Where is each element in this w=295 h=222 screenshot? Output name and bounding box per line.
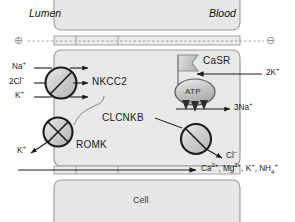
cell-label: Cell (133, 196, 149, 205)
sodium-pump-label: 3Na+ (234, 104, 253, 112)
chloride-efflux-charge: − (234, 149, 238, 155)
blood-label: Blood (209, 8, 236, 19)
clcnkb-label: CLCNKB (102, 113, 144, 123)
paracellular-ion-charge: + (251, 162, 255, 168)
chloride-efflux-label: Cl− (226, 152, 237, 160)
potassium-pump-charge: + (276, 66, 280, 72)
paracellular-ion: Ca2+ (201, 164, 218, 173)
paracellular-ion-list: Ca2+, Mg2+, K+, NH4+ (201, 165, 278, 173)
diagram-canvas: Lumen Blood ⊕ ⊖ Na+ 2Cl− K+ NKCC2 K+ ROM… (0, 0, 295, 222)
paracellular-ion: K+ (246, 164, 255, 173)
romk-label: ROMK (76, 140, 107, 150)
chloride-influx-text: 2Cl (9, 77, 21, 86)
paracellular-ion-subscript: 4 (271, 169, 274, 175)
chloride-influx-charge: − (21, 75, 25, 81)
potassium-influx-charge: + (20, 89, 24, 95)
sodium-influx-label: Na+ (12, 63, 26, 71)
sodium-influx-charge: + (22, 60, 26, 66)
potassium-pump-text: 2K (266, 68, 276, 77)
potassium-efflux-romk-label: K+ (17, 147, 26, 155)
sodium-pump-charge: + (249, 101, 253, 107)
potassium-efflux-romk-charge: + (22, 144, 26, 150)
paracellular-ion: NH4+ (259, 164, 278, 173)
paracellular-ion-charge: + (274, 162, 278, 168)
sodium-pump-text: 3Na (234, 103, 249, 112)
chloride-influx-label: 2Cl− (9, 78, 25, 86)
negative-charge-symbol: ⊖ (266, 35, 275, 46)
potassium-influx-label: K+ (15, 92, 24, 100)
casr-label: CaSR (203, 56, 230, 66)
potassium-pump-label: 2K+ (266, 69, 280, 77)
nkcc2-label: NKCC2 (92, 77, 127, 87)
lumen-label: Lumen (29, 8, 61, 19)
atp-pump-label: ATP (185, 88, 201, 96)
chloride-efflux-text: Cl (226, 151, 234, 160)
sodium-influx-text: Na (12, 62, 22, 71)
paracellular-ion: Mg2+ (223, 164, 241, 173)
positive-charge-symbol: ⊕ (14, 35, 23, 46)
paracellular-ion-charge: 2+ (234, 162, 241, 168)
paracellular-ion-charge: 2+ (211, 162, 218, 168)
